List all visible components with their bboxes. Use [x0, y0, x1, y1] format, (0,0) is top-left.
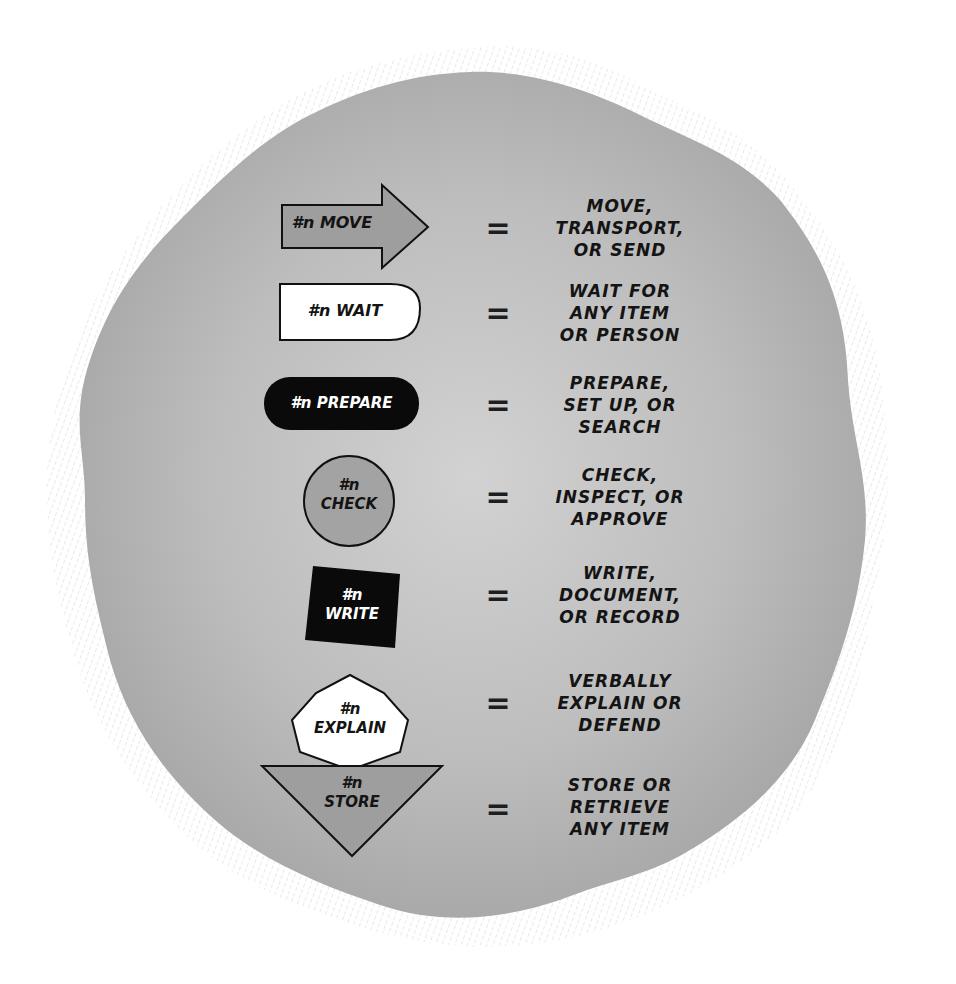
meaning-line: DEFEND — [525, 714, 715, 736]
meaning-line: INSPECT, OR — [525, 486, 715, 508]
meaning-line: VERBALLY — [525, 670, 715, 692]
equals-sign: = — [478, 688, 518, 718]
equals-sign: = — [478, 390, 518, 420]
meaning-line: DOCUMENT, — [525, 584, 715, 606]
equals-sign: = — [478, 213, 518, 243]
meaning-line: WRITE, — [525, 562, 715, 584]
explain-symbol-label-line1: #n — [295, 700, 405, 719]
prepare-symbol-label: #n PREPARE — [264, 394, 419, 412]
meaning-line: APPROVE — [525, 508, 715, 530]
meaning-line: PREPARE, — [525, 372, 715, 394]
meaning-line: WAIT FOR — [525, 280, 715, 302]
equals-sign: = — [478, 298, 518, 328]
store-symbol-label-line2: STORE — [305, 793, 399, 812]
write-symbol-label-line1: #n — [306, 586, 398, 605]
store-symbol-label: #n STORE — [305, 774, 399, 812]
prepare-meaning: PREPARE, SET UP, OR SEARCH — [525, 372, 715, 438]
move-symbol-label: #n MOVE — [282, 213, 382, 232]
meaning-line: SEARCH — [525, 416, 715, 438]
meaning-line: OR RECORD — [525, 606, 715, 628]
wait-meaning: WAIT FOR ANY ITEM OR PERSON — [525, 280, 715, 346]
wait-symbol-label: #n WAIT — [280, 301, 410, 320]
equals-sign: = — [478, 794, 518, 824]
explain-symbol-label-line2: EXPLAIN — [295, 719, 405, 738]
check-symbol-label-line1: #n — [304, 476, 394, 495]
meaning-line: OR SEND — [525, 239, 715, 261]
meaning-line: EXPLAIN OR — [525, 692, 715, 714]
meaning-line: SET UP, OR — [525, 394, 715, 416]
meaning-line: ANY ITEM — [525, 818, 715, 840]
meaning-line: CHECK, — [525, 464, 715, 486]
check-symbol-label: #n CHECK — [304, 476, 394, 514]
store-meaning: STORE OR RETRIEVE ANY ITEM — [525, 774, 715, 840]
check-meaning: CHECK, INSPECT, OR APPROVE — [525, 464, 715, 530]
meaning-line: RETRIEVE — [525, 796, 715, 818]
explain-meaning: VERBALLY EXPLAIN OR DEFEND — [525, 670, 715, 736]
write-symbol-label-line2: WRITE — [306, 605, 398, 624]
write-symbol-label: #n WRITE — [306, 586, 398, 624]
explain-symbol-label: #n EXPLAIN — [295, 700, 405, 738]
equals-sign: = — [478, 580, 518, 610]
meaning-line: MOVE, — [525, 195, 715, 217]
store-symbol-label-line1: #n — [305, 774, 399, 793]
flowchart-symbol-legend: #n MOVE #n WAIT #n PREPARE #n CHECK #n W… — [0, 0, 956, 984]
meaning-line: OR PERSON — [525, 324, 715, 346]
write-meaning: WRITE, DOCUMENT, OR RECORD — [525, 562, 715, 628]
meaning-line: TRANSPORT, — [525, 217, 715, 239]
equals-sign: = — [478, 482, 518, 512]
meaning-line: STORE OR — [525, 774, 715, 796]
move-meaning: MOVE, TRANSPORT, OR SEND — [525, 195, 715, 261]
check-symbol-label-line2: CHECK — [304, 495, 394, 514]
meaning-line: ANY ITEM — [525, 302, 715, 324]
